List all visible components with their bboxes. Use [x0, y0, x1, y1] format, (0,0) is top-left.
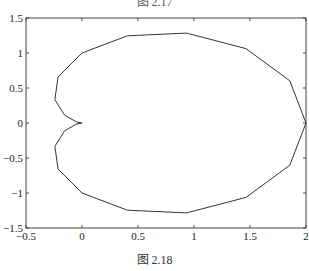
y-tick-label: 1.5: [9, 12, 23, 24]
y-tick-label: 1: [18, 47, 24, 59]
y-tick-label: 0.5: [9, 82, 23, 94]
x-tick-label: 1: [191, 230, 197, 242]
cardioid-chart: −0.500.511.52−1.5−1−0.500.511.5: [0, 0, 309, 271]
x-tick-label: 0.5: [131, 230, 145, 242]
cardioid-line: [55, 33, 306, 213]
y-tick-label: −0.5: [3, 152, 23, 164]
axes-frame: [26, 18, 306, 228]
y-tick-label: −1: [11, 187, 23, 199]
x-tick-label: 1.5: [243, 230, 257, 242]
x-tick-label: 2: [303, 230, 309, 242]
x-tick-label: 0: [79, 230, 85, 242]
y-tick-label: 0: [18, 117, 24, 129]
y-tick-label: −1.5: [3, 222, 23, 234]
figure-caption: 图 2.18: [0, 250, 309, 268]
